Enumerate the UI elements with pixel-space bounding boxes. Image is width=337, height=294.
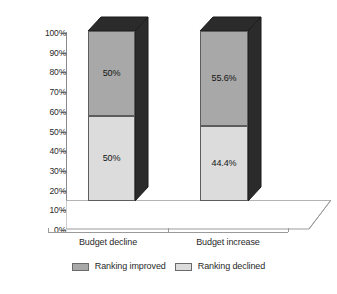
y-axis-label: 60% — [22, 108, 66, 117]
y-axis-label: 90% — [22, 48, 66, 57]
bar-segment-label: 50% — [103, 69, 121, 78]
chart-legend: Ranking improved Ranking declined — [0, 262, 337, 271]
legend-label: Ranking improved — [95, 262, 166, 271]
bar-segment-ranking-improved: 55.6% — [200, 31, 248, 126]
y-axis-label: 30% — [22, 167, 66, 176]
y-axis-label: 80% — [22, 68, 66, 77]
bar-budget-increase: 55.6% 44.4% — [200, 31, 248, 201]
bar-budget-decline: 50% 50% — [88, 31, 135, 201]
y-axis-label: 50% — [22, 127, 66, 136]
y-axis-label: 10% — [22, 206, 66, 215]
x-axis-tick — [288, 228, 289, 232]
plot-area: 100% 90% 80% 70% 60% 50% 40% 30% 20% 10%… — [0, 0, 337, 294]
legend-item-ranking-improved: Ranking improved — [72, 262, 166, 271]
x-axis-category-label: Budget increase — [168, 238, 288, 247]
x-axis-tick — [48, 228, 49, 232]
stacked-bar-chart: 100% 90% 80% 70% 60% 50% 40% 30% 20% 10%… — [0, 0, 337, 294]
bar-segment-ranking-declined: 44.4% — [200, 126, 248, 202]
legend-item-ranking-declined: Ranking declined — [175, 262, 265, 271]
y-axis-label: 100% — [22, 29, 66, 38]
y-axis-label: 20% — [22, 186, 66, 195]
y-axis-label: 40% — [22, 147, 66, 156]
chart-floor — [66, 200, 331, 229]
x-axis-line — [48, 232, 288, 233]
x-axis-tick — [168, 228, 169, 232]
x-axis-category-label: Budget decline — [48, 238, 168, 247]
legend-label: Ranking declined — [198, 262, 265, 271]
bar-segment-ranking-declined: 50% — [88, 116, 135, 201]
bar-segment-label: 44.4% — [211, 159, 236, 168]
legend-swatch-icon — [72, 263, 89, 271]
bar-segment-ranking-improved: 50% — [88, 31, 135, 116]
bar-segment-label: 50% — [103, 154, 121, 163]
bar-segment-label: 55.6% — [211, 74, 236, 83]
legend-swatch-icon — [175, 263, 192, 271]
y-axis-label: 70% — [22, 88, 66, 97]
